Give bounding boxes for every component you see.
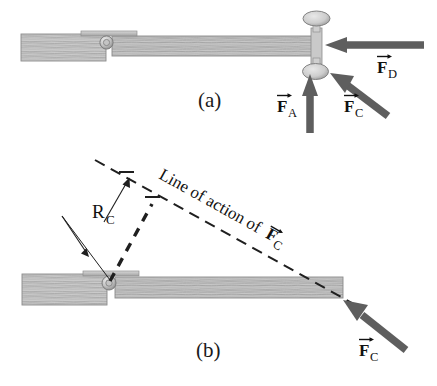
label-FC-b-subscript: C xyxy=(370,350,378,364)
panel-a-label: (a) xyxy=(198,88,221,112)
hinge-plate-b xyxy=(83,271,139,276)
hinge-pin-a xyxy=(100,36,113,49)
door-leaf-b xyxy=(115,277,343,298)
label-FC-a-symbol: F xyxy=(344,97,354,116)
label-FD: F D xyxy=(377,54,397,81)
panel-b: R C Line of action of F C xyxy=(22,160,406,364)
label-FD-subscript: D xyxy=(388,67,397,81)
label-FA-symbol: F xyxy=(277,97,287,116)
leader-line-hinge xyxy=(62,216,110,280)
label-FC-b-symbol: F xyxy=(359,341,369,360)
panel-b-label: (b) xyxy=(196,338,221,362)
force-arrow-FA xyxy=(302,74,318,133)
physics-figure: F D F A F C (a) xyxy=(0,0,437,386)
figure-canvas: F D F A F C (a) xyxy=(0,0,437,386)
force-arrow-FC-b xyxy=(343,300,406,350)
panel-a: F D F A F C (a) xyxy=(21,11,424,133)
door-frame-b xyxy=(22,274,107,305)
door-frame-a xyxy=(21,34,106,61)
line-of-action-label: Line of action of F C xyxy=(154,165,289,254)
label-RC: R C xyxy=(92,201,115,227)
label-FC-a-subscript: C xyxy=(355,106,363,120)
label-FD-symbol: F xyxy=(377,58,387,77)
label-RC-symbol: R xyxy=(92,201,105,222)
moment-arm-RC-dashed xyxy=(110,204,152,281)
label-RC-subscript: C xyxy=(106,212,115,227)
label-FA: F A xyxy=(277,93,297,120)
label-FA-subscript: A xyxy=(288,106,297,120)
line-of-action-vector-FC: F C xyxy=(261,224,289,253)
door-leaf-a xyxy=(112,36,317,56)
force-arrow-FD xyxy=(325,37,424,53)
hinge-plate-a xyxy=(81,31,137,36)
label-FC-b: F C xyxy=(359,337,378,364)
line-of-action-text: Line of action of xyxy=(156,165,265,237)
